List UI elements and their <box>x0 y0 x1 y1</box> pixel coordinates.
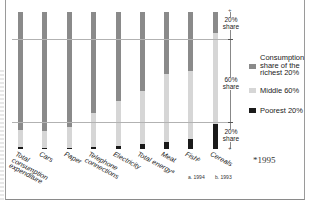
bar-6 <box>164 12 169 149</box>
bar-segment-rich <box>164 12 169 74</box>
bar-segment-poor <box>91 147 96 149</box>
bottom-share-label: 20% share <box>220 129 242 142</box>
bar-segment-middle <box>164 74 169 143</box>
scale-tick-80 <box>228 39 233 40</box>
footnote-a: a. 1994 <box>188 174 205 180</box>
scale-tick-20 <box>228 122 233 123</box>
bar-segment-poor <box>188 139 193 149</box>
bar-4 <box>116 12 121 149</box>
bar-0 <box>18 12 23 149</box>
bar-segment-middle <box>116 101 121 146</box>
bar-segment-middle <box>91 113 96 147</box>
bar-segment-rich <box>42 12 47 131</box>
legend-item-middle: Middle 60% <box>249 87 299 95</box>
bar-segment-middle <box>140 91 145 143</box>
bar-segment-rich <box>18 12 23 130</box>
legend-label-poor: Poorest 20% <box>260 107 303 115</box>
bar-2 <box>67 12 72 149</box>
bar-segment-poor <box>67 148 72 149</box>
middle-share-label: 60% share <box>220 77 242 90</box>
bar-segment-poor <box>42 148 47 149</box>
scale-bottom-marker: + <box>228 145 232 151</box>
footnote-star: *1995 <box>253 155 276 165</box>
footnote-b: b. 1993 <box>215 174 232 180</box>
bar-segment-middle <box>18 130 23 147</box>
bar-segment-poor <box>164 142 169 149</box>
bar-3 <box>91 12 96 149</box>
bar-segment-middle <box>67 127 72 148</box>
legend-swatch-middle <box>249 88 256 93</box>
legend-swatch-poor <box>249 108 256 113</box>
reference-line-80 <box>12 39 232 40</box>
bar-segment-middle <box>42 131 47 148</box>
faint-edge-text <box>0 70 4 200</box>
bar-segment-rich <box>116 12 121 101</box>
bar-5 <box>140 12 145 149</box>
legend-label-middle: Middle 60% <box>260 87 299 95</box>
reference-line-20 <box>12 122 232 123</box>
bar-segment-rich <box>67 12 72 127</box>
legend-label-rich: Consumption share of the richest 20% <box>260 54 304 77</box>
bar-7 <box>188 12 193 149</box>
legend-item-rich: Consumption share of the richest 20% <box>249 56 304 77</box>
bar-8 <box>213 12 218 149</box>
bar-segment-poor <box>18 147 23 149</box>
bar-segment-poor <box>140 144 145 149</box>
bar-segment-rich <box>91 12 96 113</box>
bar-segment-middle <box>213 33 218 125</box>
bar-segment-rich <box>213 12 218 33</box>
scale-top-marker: + <box>228 7 232 13</box>
bar-segment-poor <box>213 124 218 149</box>
bar-segment-rich <box>188 12 193 71</box>
legend-item-poor: Poorest 20% <box>249 107 303 115</box>
bar-segment-poor <box>116 146 121 149</box>
bar-segment-rich <box>140 12 145 91</box>
legend-swatch-rich <box>249 64 256 69</box>
top-share-label: 20% share <box>220 17 242 30</box>
bar-segment-middle <box>188 71 193 140</box>
bar-1 <box>42 12 47 149</box>
